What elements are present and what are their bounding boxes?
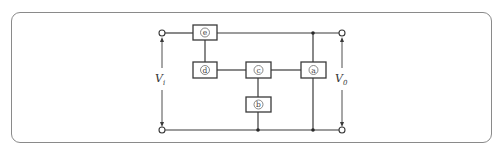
input-terminal-bottom bbox=[159, 127, 165, 133]
svg-text:b: b bbox=[256, 100, 261, 109]
circuit-diagram: Vi V0 e d c a b bbox=[0, 0, 503, 151]
input-voltage-label: Vi bbox=[155, 72, 165, 87]
input-terminal-top bbox=[159, 30, 165, 36]
svg-text:c: c bbox=[256, 66, 260, 75]
junction-dot bbox=[311, 128, 315, 132]
block-e: e bbox=[193, 25, 217, 40]
block-a: a bbox=[301, 62, 326, 78]
svg-text:a: a bbox=[311, 66, 316, 75]
output-voltage-label: V0 bbox=[335, 72, 348, 87]
block-c: c bbox=[246, 62, 271, 78]
svg-text:d: d bbox=[203, 66, 208, 75]
block-b: b bbox=[246, 97, 271, 112]
svg-text:e: e bbox=[203, 28, 208, 37]
junction-dot bbox=[256, 128, 260, 132]
block-d: d bbox=[193, 62, 217, 78]
junction-dot bbox=[311, 31, 315, 35]
output-terminal-bottom bbox=[339, 127, 345, 133]
output-terminal-top bbox=[339, 30, 345, 36]
